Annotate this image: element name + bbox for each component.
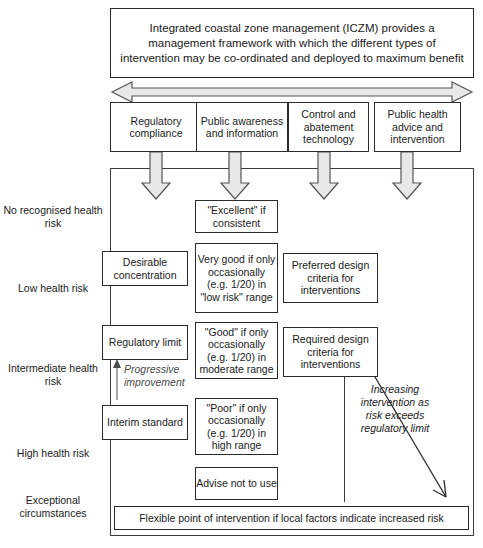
risk-level-label-no-recognised: No recognised health risk <box>0 204 106 230</box>
flexible-point-footer-box: Flexible point of intervention if local … <box>114 506 469 530</box>
iczm-header-box: Integrated coastal zone management (ICZM… <box>110 8 474 78</box>
quality-label: "Excellent" if consistent <box>196 204 277 229</box>
quality-box-good: "Good" if only occasionally (e.g. 1/20) … <box>195 322 278 379</box>
increasing-intervention-note: Increasing intervention as risk exceeds … <box>352 383 438 435</box>
intervention-type-label: Public health advice and intervention <box>375 108 460 146</box>
risk-level-label-intermediate: Intermediate health risk <box>0 362 106 388</box>
diagram-canvas: Integrated coastal zone management (ICZM… <box>0 0 483 548</box>
standard-box-interim-standard: Interim standard <box>102 405 188 440</box>
design-criteria-label: Preferred design criteria for interventi… <box>284 259 377 297</box>
design-criteria-box-required: Required design criteria for interventio… <box>283 327 378 377</box>
quality-label: "Good" if only occasionally (e.g. 1/20) … <box>196 326 277 376</box>
intervention-type-label: Public awareness and information <box>197 115 287 140</box>
intervention-type-label: Regulatory compliance <box>111 115 201 140</box>
standard-label: Desirable concentration <box>103 256 187 281</box>
quality-box-advise-not-to-use: Advise not to use <box>195 467 278 500</box>
intervention-type-label: Control and abatement technology <box>289 108 368 146</box>
quality-label: "Poor" if only occasionally (e.g. 1/20) … <box>196 402 277 452</box>
quality-label: Very good if only occasionally (e.g. 1/2… <box>196 253 277 303</box>
intervention-type-box-control-abatement: Control and abatement technology <box>288 102 369 152</box>
intervention-type-box-regulatory-compliance: Regulatory compliance <box>110 102 202 152</box>
design-criteria-label: Required design criteria for interventio… <box>284 333 377 371</box>
risk-level-label-exceptional: Exceptional circumstances <box>0 494 106 520</box>
intervention-type-box-public-awareness: Public awareness and information <box>196 102 288 152</box>
standard-label: Interim standard <box>107 416 183 429</box>
standard-label: Regulatory limit <box>109 336 181 349</box>
quality-box-excellent: "Excellent" if consistent <box>195 200 278 233</box>
standard-box-regulatory-limit: Regulatory limit <box>102 325 188 360</box>
progressive-improvement-note: Progressive improvement <box>124 363 206 389</box>
flexible-point-footer-text: Flexible point of intervention if local … <box>139 512 444 525</box>
design-criteria-box-preferred: Preferred design criteria for interventi… <box>283 253 378 303</box>
intervention-type-box-public-health-advice: Public health advice and intervention <box>374 102 461 152</box>
quality-box-poor: "Poor" if only occasionally (e.g. 1/20) … <box>195 398 278 455</box>
double-headed-span-arrow <box>112 82 472 102</box>
quality-box-very-good: Very good if only occasionally (e.g. 1/2… <box>195 243 278 313</box>
quality-label: Advise not to use <box>196 477 277 490</box>
risk-level-label-high: High health risk <box>0 447 106 460</box>
iczm-header-text: Integrated coastal zone management (ICZM… <box>119 21 465 66</box>
standard-box-desirable-concentration: Desirable concentration <box>102 251 188 286</box>
risk-level-label-low: Low health risk <box>0 282 106 295</box>
